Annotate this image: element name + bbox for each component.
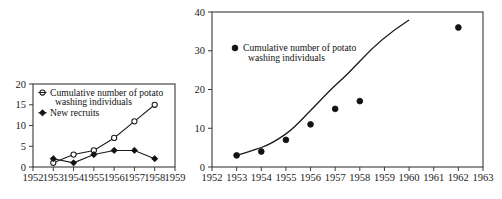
left-xtick-label-2: 1954 — [63, 172, 85, 183]
left-ytick-label-1: 5 — [21, 141, 26, 152]
right-point-1953 — [234, 152, 240, 158]
right-series-cumulative — [234, 20, 462, 158]
left-cumulative-point-1954 — [71, 152, 76, 157]
right-xtick-label-0: 1952 — [202, 172, 223, 183]
left-xtick-label-5: 1957 — [124, 172, 145, 183]
left-new-recruits-point-1957 — [131, 147, 137, 153]
right-point-1954 — [258, 149, 264, 155]
left-ytick-label-0: 0 — [21, 162, 26, 173]
right-legend: Cumulative number of potato washing indi… — [232, 42, 356, 62]
right-ytick-label-3: 30 — [195, 45, 206, 56]
right-ytick-label-4: 40 — [195, 7, 206, 18]
left-chart-panel: 0 5 10 15 20 1952 1953 1954 1955 — [0, 0, 200, 199]
left-x-axis: 1952 1953 1954 1955 1956 1957 1958 1959 — [23, 167, 186, 183]
right-ytick-label-2: 20 — [195, 84, 206, 95]
left-y-axis: 0 5 10 15 20 — [16, 79, 34, 173]
left-xtick-label-4: 1956 — [104, 172, 125, 183]
right-x-axis: 1952 1953 1954 1955 1956 1957 1958 1959 … — [202, 167, 494, 183]
figure-root: 0 5 10 15 20 1952 1953 1954 1955 — [0, 0, 502, 199]
left-new-recruits-point-1956 — [111, 147, 117, 153]
right-fitted-curve — [237, 20, 409, 155]
right-point-1958 — [357, 98, 363, 104]
right-chart-svg: 0 10 20 30 40 1952 19 — [180, 0, 502, 199]
left-new-recruits-point-1954 — [70, 160, 76, 166]
left-legend-label-cumulative-line2: washing individuals — [55, 96, 132, 107]
left-chart-svg: 0 5 10 15 20 1952 1953 1954 1955 — [0, 0, 200, 199]
left-xtick-label-3: 1955 — [83, 172, 104, 183]
right-legend-label-line2: washing individuals — [248, 52, 325, 63]
right-xtick-label-5: 1957 — [325, 172, 346, 183]
right-point-1956 — [308, 121, 314, 127]
right-xtick-label-8: 1960 — [399, 172, 420, 183]
right-xtick-label-3: 1955 — [275, 172, 296, 183]
right-xtick-label-11: 1963 — [473, 172, 494, 183]
right-xtick-label-1: 1953 — [226, 172, 247, 183]
left-cumulative-point-1956 — [112, 135, 117, 140]
left-ytick-label-3: 15 — [16, 99, 27, 110]
right-xtick-label-7: 1959 — [374, 172, 395, 183]
left-cumulative-point-1957 — [132, 119, 137, 124]
right-point-1962 — [455, 25, 461, 31]
right-point-1955 — [283, 137, 289, 143]
left-ytick-label-2: 10 — [16, 120, 27, 131]
right-point-1957 — [332, 106, 338, 112]
right-xtick-label-9: 1961 — [423, 172, 444, 183]
right-xtick-label-2: 1954 — [251, 172, 273, 183]
left-xtick-label-0: 1952 — [23, 172, 44, 183]
left-xtick-label-6: 1958 — [144, 172, 165, 183]
right-xtick-label-4: 1956 — [300, 172, 321, 183]
right-xtick-label-6: 1958 — [349, 172, 370, 183]
right-y-axis: 0 10 20 30 40 — [195, 7, 213, 173]
right-legend-marker-cumulative-icon — [232, 45, 238, 51]
right-chart-panel: 0 10 20 30 40 1952 19 — [180, 0, 502, 199]
left-series-new-recruits — [50, 147, 158, 166]
left-legend-label-new-recruits: New recruits — [50, 107, 100, 118]
right-ytick-label-0: 0 — [200, 162, 205, 173]
right-ytick-label-1: 10 — [195, 123, 206, 134]
left-xtick-label-1: 1953 — [43, 172, 64, 183]
right-plot-frame — [212, 12, 483, 167]
left-new-recruits-point-1958 — [152, 156, 158, 162]
left-ytick-label-4: 20 — [16, 79, 27, 90]
left-cumulative-point-1958 — [152, 102, 157, 107]
right-xtick-label-10: 1962 — [448, 172, 469, 183]
